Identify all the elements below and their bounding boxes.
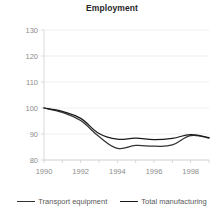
axis-ticks bbox=[41, 30, 209, 163]
employment-chart: Employment 8090100110120130 199019921994… bbox=[0, 0, 224, 211]
y-tick-label: 110 bbox=[26, 78, 38, 87]
x-tick-label: 1992 bbox=[72, 167, 89, 176]
legend-item-transport-equipment: Transport equipment bbox=[17, 197, 107, 206]
gridlines bbox=[44, 30, 209, 160]
x-axis-labels: 19901992199419961998 bbox=[36, 167, 199, 176]
y-tick-label: 90 bbox=[30, 130, 38, 139]
y-axis-labels: 8090100110120130 bbox=[25, 26, 38, 165]
x-tick-label: 1990 bbox=[36, 167, 53, 176]
chart-legend: Transport equipment Total manufacturing bbox=[0, 197, 224, 206]
chart-plot-area: 8090100110120130 19901992199419961998 bbox=[0, 0, 224, 211]
legend-label-transport-equipment: Transport equipment bbox=[38, 197, 107, 206]
data-series bbox=[44, 108, 209, 149]
legend-label-total-manufacturing: Total manufacturing bbox=[141, 197, 206, 206]
x-tick-label: 1996 bbox=[146, 167, 163, 176]
axis-lines bbox=[44, 30, 209, 160]
legend-line-swatch-total-manufacturing bbox=[120, 201, 138, 202]
series-line-total-manufacturing bbox=[44, 108, 209, 140]
y-tick-label: 80 bbox=[30, 156, 38, 165]
legend-item-total-manufacturing: Total manufacturing bbox=[120, 197, 206, 206]
y-tick-label: 100 bbox=[25, 104, 38, 113]
x-tick-label: 1998 bbox=[182, 167, 199, 176]
series-line-transport-equipment bbox=[44, 108, 209, 149]
y-tick-label: 130 bbox=[25, 26, 38, 35]
legend-line-swatch-transport-equipment bbox=[17, 201, 35, 202]
x-tick-label: 1994 bbox=[109, 167, 126, 176]
y-tick-label: 120 bbox=[25, 52, 38, 61]
